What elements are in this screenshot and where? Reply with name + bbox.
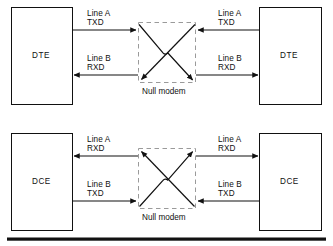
cross-line-tr-bl-top (142, 25, 196, 80)
figure-canvas: DTE DTE Line A TXD Line A TXD Line B RXD… (0, 0, 333, 246)
top-left-signal-label: TXD (87, 18, 104, 28)
bottom-left-signal-label: TXD (87, 189, 104, 199)
bottom-right-signal-label: RXD (218, 63, 236, 73)
right-dte-box-label: DTE (280, 51, 298, 60)
cross-line-tl-br-top (139, 25, 193, 81)
top-left-signal-label: RXD (87, 144, 105, 154)
bottom-left-signal-label: RXD (87, 63, 105, 73)
null-modem-label-top: Null modem (142, 87, 186, 96)
null-modem-label-bottom: Null modem (142, 213, 186, 222)
cross-line-bl-tr-bottom (140, 152, 193, 207)
wiring-diagram-svg (0, 0, 333, 246)
left-dte-box-label: DTE (32, 51, 50, 60)
top-right-signal-label: TXD (218, 18, 235, 28)
top-right-signal-label: RXD (218, 144, 236, 154)
right-dce-box-label: DCE (280, 177, 299, 186)
bottom-rule (7, 238, 326, 241)
left-dce-box-label: DCE (32, 177, 51, 186)
bottom-right-signal-label: TXD (218, 189, 235, 199)
